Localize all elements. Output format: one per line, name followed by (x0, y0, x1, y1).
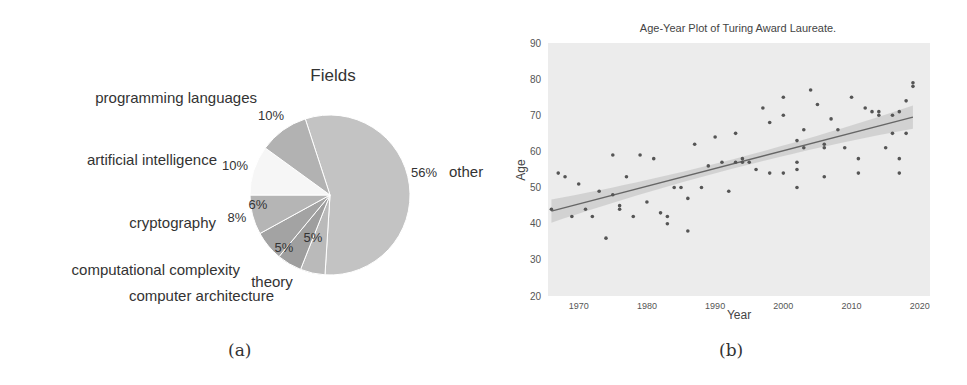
data-point (659, 211, 663, 215)
data-point (672, 186, 676, 190)
data-point (816, 103, 820, 107)
data-point (686, 229, 690, 233)
data-point (707, 164, 711, 168)
data-point (843, 146, 847, 150)
data-point (584, 207, 588, 211)
x-tick-label: 2010 (842, 301, 862, 311)
data-point (898, 157, 902, 161)
data-point (822, 146, 826, 150)
y-tick-label: 70 (530, 110, 542, 121)
data-point (747, 160, 751, 164)
data-point (727, 189, 731, 193)
data-point (898, 171, 902, 175)
data-point (638, 153, 642, 157)
data-point (563, 175, 567, 179)
data-point (666, 222, 670, 226)
data-point (686, 197, 690, 201)
x-tick-label: 1980 (637, 301, 657, 311)
x-tick-label: 1970 (569, 301, 589, 311)
x-axis-label: Year (727, 308, 751, 322)
data-point (795, 168, 799, 172)
plot-area (548, 43, 930, 296)
data-point (911, 85, 915, 89)
y-tick-label: 80 (530, 74, 542, 85)
data-point (782, 171, 786, 175)
data-point (720, 160, 724, 164)
data-point (734, 132, 738, 136)
x-tick-label: 2020 (910, 301, 930, 311)
data-point (795, 160, 799, 164)
data-point (836, 128, 840, 132)
data-point (795, 139, 799, 143)
data-point (877, 110, 881, 114)
data-point (891, 132, 895, 136)
scatter-title: Age-Year Plot of Turing Award Laureate. (640, 22, 836, 34)
y-tick-label: 20 (530, 291, 542, 302)
data-point (782, 95, 786, 99)
data-point (741, 160, 745, 164)
data-point (713, 135, 717, 139)
data-point (700, 186, 704, 190)
data-point (645, 200, 649, 204)
data-point (809, 88, 813, 92)
data-point (666, 215, 670, 219)
data-point (611, 153, 615, 157)
data-point (822, 142, 826, 146)
y-tick-label: 90 (530, 38, 542, 49)
data-point (863, 106, 867, 110)
data-point (550, 207, 554, 211)
data-point (693, 142, 697, 146)
data-point (761, 106, 765, 110)
data-point (782, 113, 786, 117)
data-point (741, 157, 745, 161)
data-point (618, 207, 622, 211)
data-point (898, 110, 902, 114)
y-axis-label: Age (514, 159, 528, 181)
x-tick-label: 1990 (705, 301, 725, 311)
data-point (625, 175, 629, 179)
data-point (591, 215, 595, 219)
data-point (679, 186, 683, 190)
data-point (577, 182, 581, 186)
data-point (850, 95, 854, 99)
data-point (604, 236, 608, 240)
data-point (891, 113, 895, 117)
data-point (870, 110, 874, 114)
data-point (857, 171, 861, 175)
data-point (597, 189, 601, 193)
y-tick-label: 50 (530, 182, 542, 193)
data-point (631, 215, 635, 219)
data-point (768, 171, 772, 175)
data-point (795, 186, 799, 190)
y-tick-label: 60 (530, 146, 542, 157)
data-point (911, 81, 915, 85)
data-point (754, 168, 758, 172)
data-point (570, 215, 574, 219)
y-tick-label: 40 (530, 218, 542, 229)
y-tick-label: 30 (530, 254, 542, 265)
data-point (768, 121, 772, 125)
data-point (802, 128, 806, 132)
data-point (884, 146, 888, 150)
scatter-plot: Age-Year Plot of Turing Award Laureate. … (0, 0, 967, 385)
data-point (822, 175, 826, 179)
data-point (734, 160, 738, 164)
data-point (877, 113, 881, 117)
data-point (904, 99, 908, 103)
data-point (857, 157, 861, 161)
caption-b: (b) (719, 340, 743, 360)
data-point (904, 132, 908, 136)
data-point (829, 117, 833, 121)
data-point (611, 193, 615, 197)
data-point (556, 171, 560, 175)
x-tick-label: 2000 (773, 301, 793, 311)
data-point (618, 204, 622, 208)
data-point (802, 146, 806, 150)
data-point (652, 157, 656, 161)
y-tick-labels: 2030405060708090 (530, 38, 542, 302)
